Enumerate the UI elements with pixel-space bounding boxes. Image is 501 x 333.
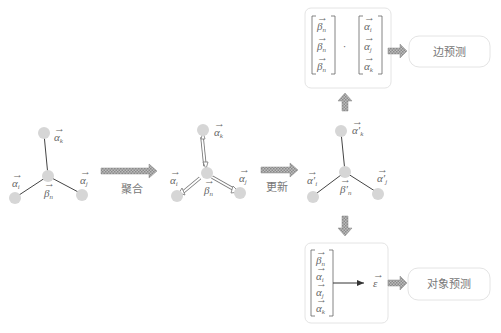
vector-arrow-icon: → xyxy=(373,268,384,280)
label-beta-n: βn xyxy=(43,187,53,201)
node-alpha-i xyxy=(171,190,183,202)
svg-text:→: → xyxy=(316,245,327,257)
node-alpha-j xyxy=(234,187,246,199)
message-arrow-top xyxy=(201,132,208,169)
vector-arrow-icon: → xyxy=(54,122,65,134)
label-beta-n-updated: β′n xyxy=(339,183,352,197)
svg-text:→: → xyxy=(317,31,328,43)
vector-arrow-icon: → xyxy=(352,115,363,127)
edge-formula-box: βn → βn → βn → · αi → αj → αk → xyxy=(305,8,391,88)
dot-operator: · xyxy=(343,40,346,52)
update-arrow: 更新 xyxy=(261,163,298,194)
vector-arrow-icon: → xyxy=(80,165,91,177)
edge-prediction-box: 边预测 xyxy=(409,36,490,67)
vector-arrow-icon: → xyxy=(340,173,351,185)
node-alpha-j-updated xyxy=(372,188,384,200)
svg-text:→: → xyxy=(316,261,327,273)
svg-text:→: → xyxy=(316,277,327,289)
vector-arrow-icon: → xyxy=(170,165,181,177)
stage2-graph: αk → αi → αj → βn → xyxy=(170,117,250,202)
vector-arrow-icon: → xyxy=(12,168,23,180)
edge-line xyxy=(44,134,48,176)
diagram-canvas: αk → αi → αj → βn → 聚合 xyxy=(0,0,501,333)
node-alpha-k-updated xyxy=(335,125,347,137)
vector-arrow-icon: → xyxy=(377,163,388,175)
stage3-graph: α′k → α′i → α′j → β′n → xyxy=(307,115,388,203)
node-alpha-i-updated xyxy=(307,191,319,203)
object-prediction-label: 对象预测 xyxy=(427,277,471,291)
svg-text:→: → xyxy=(364,11,375,23)
svg-text:→: → xyxy=(364,51,375,63)
hatched-right-arrow-icon xyxy=(261,163,298,177)
svg-text:→: → xyxy=(317,11,328,23)
label-beta-n: βn xyxy=(203,184,213,198)
message-arrow-left xyxy=(179,178,200,195)
node-alpha-j xyxy=(76,189,88,201)
svg-text:→: → xyxy=(316,293,327,305)
vector-arrow-icon: → xyxy=(204,174,215,186)
edge-prediction-label: 边预测 xyxy=(433,46,466,59)
vector-arrow-icon: → xyxy=(44,177,55,189)
edge-line xyxy=(341,132,345,172)
aggregate-arrow: 聚合 xyxy=(101,164,157,196)
vector-arrow-icon: → xyxy=(239,163,250,175)
hatched-right-arrow-icon xyxy=(388,276,407,290)
svg-text:→: → xyxy=(364,31,375,43)
object-formula-box: βn → αi → αj → αk → ε → xyxy=(305,243,388,323)
stage1-graph: αk → αi → αj → βn → xyxy=(9,122,91,204)
hatched-up-arrow-icon xyxy=(338,93,352,111)
aggregate-label: 聚合 xyxy=(121,182,143,196)
node-alpha-k xyxy=(197,124,209,136)
vector-arrow-icon: → xyxy=(307,165,318,177)
node-alpha-i xyxy=(9,192,21,204)
object-prediction-box: 对象预测 xyxy=(408,268,490,300)
update-label: 更新 xyxy=(266,180,288,194)
svg-text:→: → xyxy=(317,51,328,63)
vector-arrow-icon: → xyxy=(214,117,225,129)
node-alpha-k xyxy=(38,127,50,139)
hatched-down-arrow-icon xyxy=(338,216,352,236)
hatched-right-arrow-icon xyxy=(101,164,157,178)
